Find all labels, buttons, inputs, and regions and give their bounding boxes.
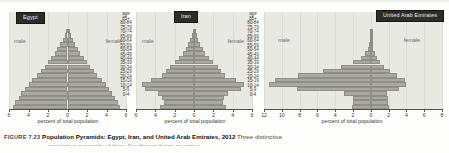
panel-egypt: 6420246 Egypt male female percent of tot… [2, 6, 134, 128]
figure-title: Population Pyramids: Egypt, Iran, and Un… [42, 133, 235, 140]
gridline [442, 12, 443, 109]
country-label-egypt: Egypt [16, 12, 45, 24]
figure-caption: FIGURE 7.23 Population Pyramids: Egypt, … [4, 133, 445, 146]
panel-united-arab-emirates: 1210864202468 United Arab Emirates male … [256, 6, 448, 128]
plot-area-egypt [9, 12, 126, 109]
figure-caption-text: Three distinctive [237, 133, 282, 140]
x-axis-title-uae: percent of total population [256, 118, 448, 124]
male-label-uae: male [278, 37, 290, 43]
figure-number: FIGURE 7.23 [4, 134, 40, 140]
plot-area-iran [136, 12, 252, 109]
plot-area-uae [264, 12, 442, 109]
figure-caption-line2: population pyramids of three Southwest A… [48, 142, 445, 146]
x-axis-title-egypt: percent of total population [2, 118, 134, 124]
bars-iran [136, 12, 252, 109]
panel-iran: 6420246 Iran male female percent of tota… [130, 6, 260, 128]
country-label-iran: Iran [174, 11, 198, 23]
page-edge [0, 0, 449, 3]
male-label-egypt: male [14, 38, 26, 44]
x-axis-title-iran: percent of total population [130, 118, 260, 124]
figure-population-pyramids: 6420246 Egypt male female percent of tot… [0, 0, 449, 153]
country-label-uae: United Arab Emirates [376, 10, 444, 22]
male-label-iran: male [142, 38, 154, 44]
bars-egypt [9, 12, 126, 109]
pyramid-panels: 6420246 Egypt male female percent of tot… [0, 6, 449, 128]
bars-uae [264, 12, 442, 109]
female-label-uae: female [404, 37, 420, 43]
